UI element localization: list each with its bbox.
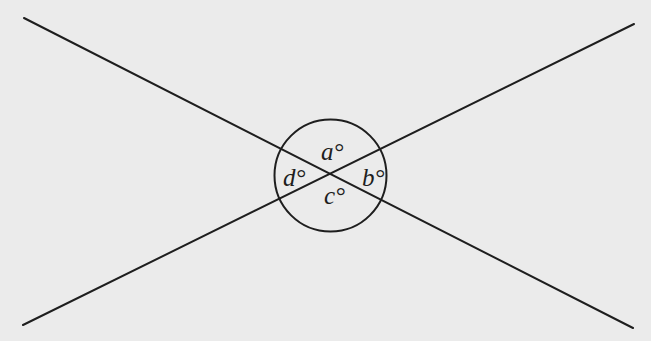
diagram-canvas: a° d° b° c° <box>0 0 651 341</box>
angle-label-d: d° <box>283 164 306 191</box>
intersecting-lines-figure: a° d° b° c° <box>0 0 651 341</box>
line-1 <box>24 18 633 328</box>
angle-label-c: c° <box>324 182 345 209</box>
angle-label-b: b° <box>362 164 385 191</box>
line-2 <box>23 24 634 325</box>
angle-label-a: a° <box>321 138 344 165</box>
